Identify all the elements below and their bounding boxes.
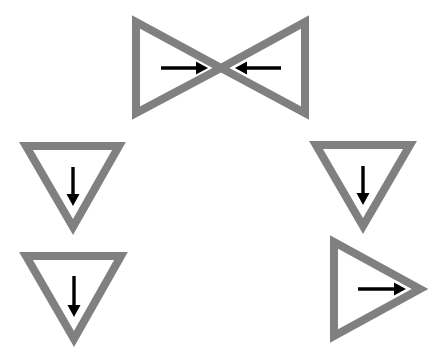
figure-canvas bbox=[0, 0, 436, 354]
figure-svg bbox=[0, 0, 436, 354]
figure-background bbox=[0, 0, 436, 354]
